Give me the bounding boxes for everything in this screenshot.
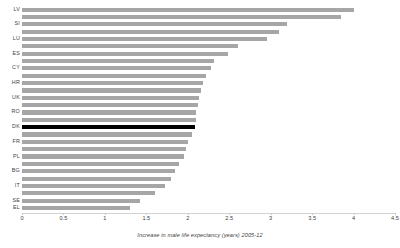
bar-row <box>22 50 395 57</box>
bar-row <box>22 138 395 145</box>
bar-row <box>22 190 395 197</box>
y-axis-tick-label-lv: LV <box>13 7 20 12</box>
y-axis-tick-label-bg: BG <box>12 169 20 174</box>
bar-row <box>22 182 395 189</box>
bar-fi <box>22 74 206 78</box>
x-tick-label-0-5: 0.5 <box>60 216 68 222</box>
y-label-row <box>0 160 20 167</box>
y-axis-tick-label-se: SE <box>12 198 20 203</box>
y-label-row: BG <box>0 168 20 175</box>
y-label-row: EL <box>0 204 20 211</box>
y-label-row <box>0 116 20 123</box>
bar-row <box>22 72 395 79</box>
y-label-row: PL <box>0 153 20 160</box>
bar-ie <box>22 88 201 92</box>
y-axis-tick-label-it: IT <box>15 183 20 188</box>
bar-row <box>22 175 395 182</box>
y-axis-tick-label-es: ES <box>12 51 20 56</box>
x-tick-label-1-5: 1.5 <box>142 216 150 222</box>
x-tick-label-4: 4 <box>352 216 355 222</box>
bar-row <box>22 153 395 160</box>
bar-be <box>22 147 186 151</box>
y-label-row: SI <box>0 21 20 28</box>
bar-row <box>22 146 395 153</box>
y-label-row: UK <box>0 94 20 101</box>
bar-row <box>22 101 395 108</box>
y-label-row: LV <box>0 6 20 13</box>
bar-lv <box>22 8 354 12</box>
x-tick-label-4-5: 4.5 <box>391 216 399 222</box>
bar-row <box>22 21 395 28</box>
bar-lt <box>22 15 341 19</box>
bar-chart: LVSILUESCYHRUKRODKFRPLBGITSEEL 00.511.52… <box>0 0 400 248</box>
bar-at <box>22 103 198 107</box>
bar-fr <box>22 140 188 144</box>
y-label-row <box>0 190 20 197</box>
bar-cz <box>22 118 196 122</box>
bar-hr <box>22 81 203 85</box>
bar-row <box>22 87 395 94</box>
y-axis-tick-label-fr: FR <box>12 139 20 144</box>
bar-nl <box>22 162 179 166</box>
plot-area <box>22 6 395 212</box>
y-label-row <box>0 13 20 20</box>
x-tick-label-2: 2 <box>186 216 189 222</box>
y-axis-labels: LVSILUESCYHRUKRODKFRPLBGITSEEL <box>0 6 20 212</box>
bar-mt <box>22 44 238 48</box>
bar-row <box>22 57 395 64</box>
bar-uk <box>22 96 199 100</box>
bar-row <box>22 197 395 204</box>
bar-row <box>22 131 395 138</box>
y-label-row <box>0 146 20 153</box>
y-label-row <box>0 72 20 79</box>
y-axis-tick-label-dk: DK <box>12 124 20 129</box>
bar-ro <box>22 110 196 114</box>
bar-el <box>22 206 130 210</box>
bar-row <box>22 109 395 116</box>
y-label-row <box>0 28 20 35</box>
bar-row <box>22 168 395 175</box>
y-label-row: IT <box>0 182 20 189</box>
x-tick-label-1: 1 <box>103 216 106 222</box>
y-axis-tick-label-el: EL <box>13 205 20 210</box>
y-label-row <box>0 87 20 94</box>
bar-sk <box>22 177 171 181</box>
bar-row <box>22 94 395 101</box>
y-axis-tick-label-lu: LU <box>13 36 20 41</box>
y-label-row: LU <box>0 35 20 42</box>
y-axis-tick-label-uk: UK <box>12 95 20 100</box>
bar-row <box>22 124 395 131</box>
y-label-row: DK <box>0 124 20 131</box>
bar-row <box>22 6 395 13</box>
x-tick-label-3-5: 3.5 <box>308 216 316 222</box>
bar-hu <box>22 191 155 195</box>
y-label-row: FR <box>0 138 20 145</box>
y-axis-tick-label-si: SI <box>15 22 21 27</box>
bar-row <box>22 116 395 123</box>
bar-bg <box>22 169 175 173</box>
x-axis-line <box>22 213 395 214</box>
y-label-row <box>0 131 20 138</box>
bar-dk <box>22 125 195 129</box>
y-label-row: CY <box>0 65 20 72</box>
y-axis-tick-label-ro: RO <box>12 110 21 115</box>
bar-row <box>22 65 395 72</box>
x-tick-label-3: 3 <box>269 216 272 222</box>
bar-de <box>22 132 192 136</box>
y-label-row <box>0 175 20 182</box>
bar-lu <box>22 37 267 41</box>
y-axis-tick-label-hr: HR <box>12 80 20 85</box>
bar-pl <box>22 154 184 158</box>
bar-si <box>22 22 287 26</box>
bar-row <box>22 35 395 42</box>
y-label-row: ES <box>0 50 20 57</box>
bar-se <box>22 199 140 203</box>
y-axis-tick-label-pl: PL <box>13 154 20 159</box>
bar-ee <box>22 30 279 34</box>
bar-row <box>22 204 395 211</box>
y-label-row: HR <box>0 79 20 86</box>
y-label-row: RO <box>0 109 20 116</box>
x-tick-label-0: 0 <box>20 216 23 222</box>
bar-row <box>22 160 395 167</box>
bar-it <box>22 184 165 188</box>
